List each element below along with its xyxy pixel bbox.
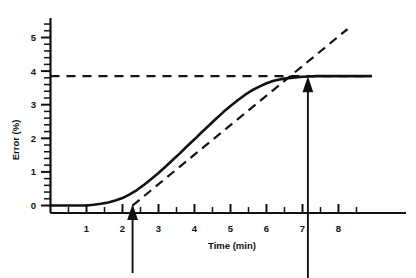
x-axis-title: Time (min) bbox=[208, 240, 256, 251]
y-tick-label-1: 1 bbox=[31, 166, 37, 177]
chart-figure: 0 1 2 3 4 5 Error (%) 1 2 3 bbox=[0, 0, 416, 278]
y-tick-label-5: 5 bbox=[31, 32, 37, 43]
x-tick-label-4: 4 bbox=[192, 223, 198, 234]
completion-arrow bbox=[303, 76, 314, 278]
x-tick-label-1: 1 bbox=[84, 223, 90, 234]
onset-arrow bbox=[127, 204, 138, 273]
y-axis-title: Error (%) bbox=[10, 120, 21, 161]
tangent-extrapolation-line bbox=[133, 29, 348, 205]
x-tick-label-3: 3 bbox=[156, 223, 161, 234]
x-tick-label-8: 8 bbox=[336, 223, 341, 234]
y-tick-label-0: 0 bbox=[31, 200, 36, 211]
x-tick-label-5: 5 bbox=[228, 223, 234, 234]
y-tick-label-4: 4 bbox=[31, 66, 37, 77]
y-tick-label-3: 3 bbox=[31, 99, 36, 110]
chart-canvas: 0 1 2 3 4 5 Error (%) 1 2 3 bbox=[0, 0, 416, 278]
error-response-curve bbox=[51, 76, 371, 205]
x-tick-label-2: 2 bbox=[120, 223, 125, 234]
y-tick-label-2: 2 bbox=[31, 133, 36, 144]
x-tick-label-7: 7 bbox=[300, 223, 305, 234]
x-tick-label-6: 6 bbox=[264, 223, 269, 234]
